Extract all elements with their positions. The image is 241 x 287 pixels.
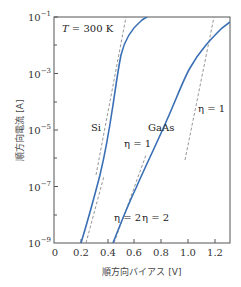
plot-frame — [54, 17, 230, 243]
x-axis-title: 順方向バイアス [V] — [102, 266, 181, 277]
iv-chart: 10−1 10−3 10−5 10−7 10−9 0 0.2 0.4 0.6 0… — [0, 0, 241, 287]
y-tick-label: 10−5 — [28, 123, 51, 136]
svg-text:0.6: 0.6 — [126, 247, 142, 258]
y-ticks — [54, 17, 58, 215]
x-ticks — [81, 239, 215, 243]
gaas-eta2-label: η = 2 — [142, 212, 169, 223]
si-label: Si — [91, 122, 101, 133]
si-eta2-label: η = 2 — [114, 212, 141, 223]
svg-text:1.0: 1.0 — [180, 247, 196, 258]
si-eta2-line — [86, 176, 104, 243]
si-eta1-line — [96, 17, 126, 175]
y-tick-labels: 10−1 10−3 10−5 10−7 10−9 — [28, 10, 51, 249]
y-tick-label: 10−1 — [28, 10, 51, 23]
x-tick-labels: 0 0.2 0.4 0.6 0.8 1.0 1.2 — [52, 247, 223, 258]
svg-text:0.8: 0.8 — [153, 247, 169, 258]
gaas-eta1-line — [185, 17, 214, 160]
y-tick-label: 10−7 — [28, 180, 51, 193]
gaas-eta1-label: η = 1 — [198, 103, 225, 114]
si-eta1-label: η = 1 — [124, 138, 151, 149]
svg-text:0.2: 0.2 — [73, 247, 89, 258]
svg-text:0: 0 — [52, 247, 58, 258]
y-axis-title: 順方向電流 [A] — [14, 99, 25, 160]
y-tick-label: 10−3 — [28, 67, 51, 80]
gaas-label: GaAs — [148, 122, 174, 133]
svg-text:1.2: 1.2 — [207, 247, 223, 258]
temperature-label: T = 300 K — [62, 23, 114, 34]
y-tick-label: 10−9 — [28, 236, 51, 249]
svg-text:0.4: 0.4 — [100, 247, 116, 258]
